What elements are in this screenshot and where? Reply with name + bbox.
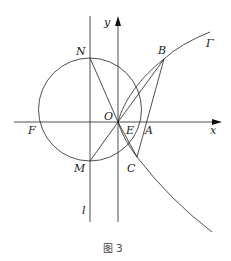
label-C: C [127,162,136,175]
label-M: M [73,162,86,175]
label-O: O [104,110,113,123]
geometry-figure: y x Γ N B O F E A M C l 图 3 [0,0,231,261]
label-B: B [157,44,166,57]
label-x: x [210,124,217,137]
label-E: E [125,124,134,137]
segment-BC [137,59,164,157]
y-axis-arrow-icon [115,16,121,26]
label-F: F [27,124,36,137]
label-l: l [82,204,86,217]
label-gamma: Γ [205,37,214,50]
label-y: y [103,16,111,29]
segment-OB [118,59,164,122]
figure-caption: 图 3 [103,243,123,254]
label-A: A [144,124,153,137]
label-N: N [75,45,86,58]
